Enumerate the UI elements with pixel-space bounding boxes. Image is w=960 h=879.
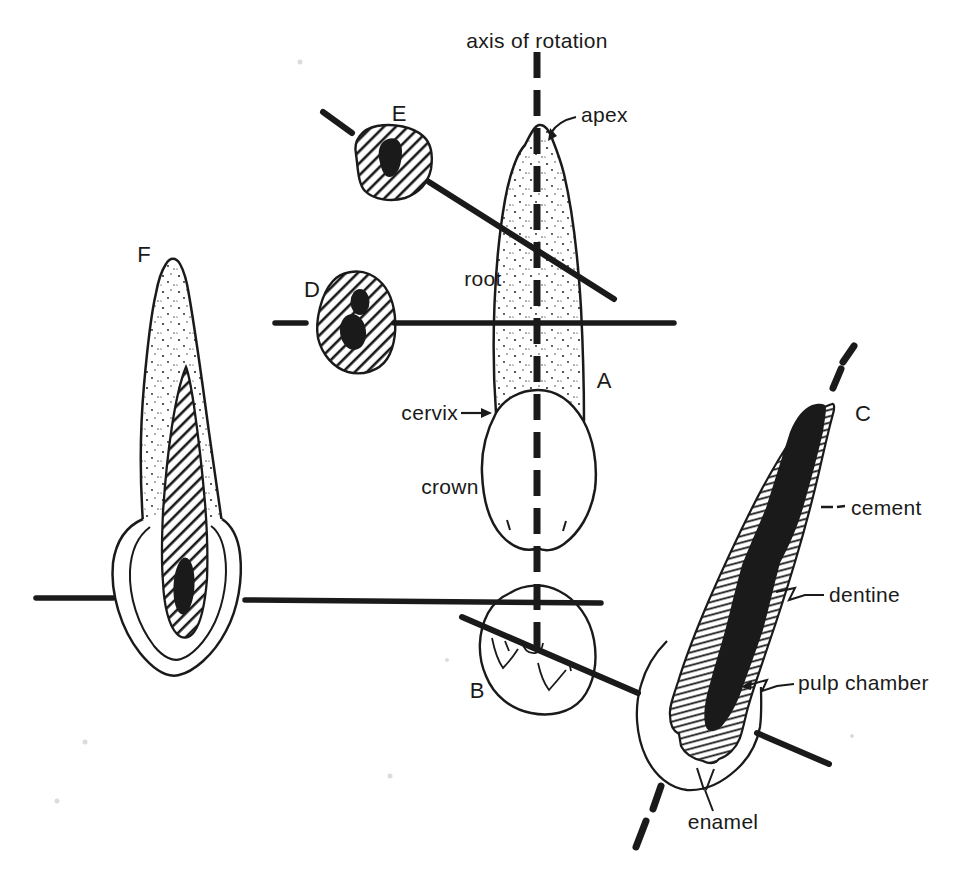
label-apex: apex — [581, 103, 628, 126]
label-pulp-chamber: pulp chamber — [798, 671, 929, 694]
label-cervix: cervix — [401, 401, 458, 424]
label-dentine: dentine — [829, 583, 900, 606]
tooth-anatomy-figure: axis of rotation apex root cervix crown … — [0, 0, 960, 879]
section-e — [355, 125, 431, 200]
axis-c-dash-4 — [636, 821, 646, 847]
tooth-f — [113, 259, 241, 676]
view-letter-f: F — [137, 242, 150, 267]
label-axis-of-rotation: axis of rotation — [466, 29, 607, 52]
section-line-e-left — [323, 112, 352, 133]
apex-arrow-line — [551, 117, 576, 133]
print-speck — [83, 740, 88, 745]
view-letter-d: D — [304, 277, 320, 302]
axis-c-dash-1 — [843, 346, 854, 362]
axis-c-dash-2 — [833, 369, 841, 388]
print-speck — [298, 60, 303, 65]
print-speck — [850, 734, 854, 738]
view-letter-c: C — [855, 401, 871, 426]
label-crown: crown — [421, 475, 479, 498]
axis-c-dash-3 — [653, 786, 661, 809]
tooth-c — [637, 404, 834, 790]
section-d — [317, 272, 395, 374]
view-letter-a: A — [597, 368, 612, 393]
section-d-pulp-upper — [351, 289, 370, 315]
print-speck — [55, 799, 60, 804]
view-letter-e: E — [392, 101, 407, 126]
label-root: root — [464, 267, 501, 290]
diagram-canvas: axis of rotation apex root cervix crown … — [0, 0, 960, 879]
view-letter-b: B — [470, 678, 485, 703]
section-line-b-right — [757, 733, 829, 764]
cervix-arrowhead — [481, 408, 492, 418]
label-cement: cement — [851, 496, 922, 519]
print-speck — [445, 658, 449, 662]
section-line-f-b — [245, 600, 601, 603]
cement-leader — [821, 506, 845, 507]
label-enamel: enamel — [688, 810, 759, 833]
print-speck — [388, 774, 393, 779]
